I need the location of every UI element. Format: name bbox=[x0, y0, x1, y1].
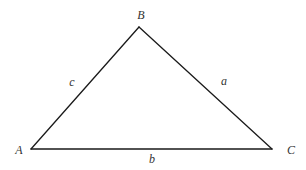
triangle bbox=[31, 27, 272, 149]
side-c-line bbox=[31, 27, 139, 149]
vertex-labels: B A C bbox=[14, 8, 296, 157]
vertex-label-b: B bbox=[137, 8, 145, 22]
triangle-diagram: B A C c a b bbox=[0, 0, 306, 170]
side-label-b: b bbox=[149, 152, 155, 166]
vertex-label-a: A bbox=[14, 143, 23, 157]
vertex-label-c: C bbox=[287, 143, 296, 157]
side-labels: c a b bbox=[69, 74, 227, 166]
side-label-a: a bbox=[221, 74, 227, 88]
side-label-c: c bbox=[69, 75, 75, 89]
side-a-line bbox=[139, 27, 272, 149]
